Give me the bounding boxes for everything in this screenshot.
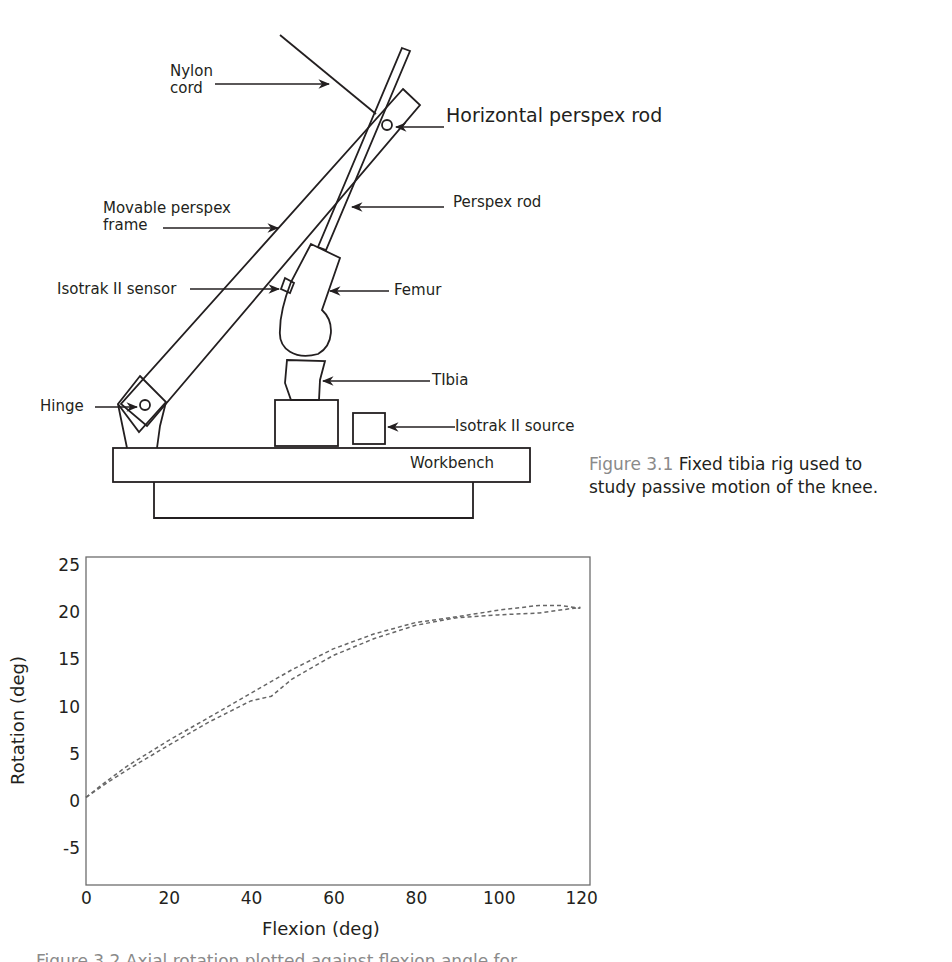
label-movable-perspex-frame: Movable perspex frame	[103, 200, 231, 235]
horizontal-rod-pivot	[382, 120, 392, 130]
x-tick-label: 0	[81, 888, 92, 908]
label-horizontal-perspex-rod: Horizontal perspex rod	[446, 105, 662, 127]
label-nylon-cord-line2: cord	[170, 80, 213, 97]
y-tick-label: -5	[63, 838, 80, 858]
y-tick-label: 15	[58, 649, 80, 669]
y-tick-label: 5	[69, 744, 80, 764]
label-perspex-rod: Perspex rod	[453, 194, 541, 211]
caption-text-2: study passive motion of the knee.	[589, 476, 878, 499]
label-hinge: Hinge	[40, 398, 84, 415]
y-tick-label: 25	[58, 555, 80, 575]
label-tibia: TIbia	[432, 372, 468, 389]
x-tick-label: 120	[565, 888, 597, 908]
x-tick-label: 60	[323, 888, 345, 908]
y-tick-label: 10	[58, 697, 80, 717]
figure-3-2-caption-clipped: Figure 3.2 Axial rotation plotted agains…	[36, 950, 539, 962]
caption-line1: Figure 3.1 Fixed tibia rig used to	[589, 453, 878, 476]
rig-diagram	[0, 0, 952, 530]
caption-figure-number: Figure 3.1	[589, 454, 673, 474]
label-frame-line1: Movable perspex	[103, 200, 231, 217]
tibia-shape	[285, 360, 325, 400]
label-isotrak-sensor: Isotrak II sensor	[57, 281, 176, 298]
movable-frame-shape	[121, 89, 420, 426]
label-nylon-cord: Nylon cord	[170, 63, 213, 98]
x-tick-label: 100	[483, 888, 515, 908]
label-nylon-cord-line1: Nylon	[170, 63, 213, 80]
plot-frame	[86, 557, 590, 885]
tibia-base-block	[275, 400, 338, 446]
x-tick-label: 80	[406, 888, 428, 908]
hinge-box	[118, 376, 166, 432]
y-tick-label: 20	[58, 602, 80, 622]
isotrak-source-shape	[353, 413, 385, 444]
label-isotrak-source: Isotrak II source	[455, 418, 575, 435]
x-tick-label: 20	[158, 888, 180, 908]
label-femur: Femur	[394, 282, 441, 299]
nylon-cord-line	[280, 35, 376, 114]
series-lower-trace	[86, 607, 580, 797]
series-upper-trace	[86, 605, 580, 797]
x-tick-label: 40	[241, 888, 263, 908]
hinge-pin	[140, 400, 150, 410]
y-axis-title: Rotation (deg)	[7, 656, 28, 785]
femur-shape	[280, 244, 340, 356]
figure-3-1-caption: Figure 3.1 Fixed tibia rig used to study…	[589, 453, 878, 499]
label-workbench: Workbench	[410, 455, 494, 472]
label-frame-line2: frame	[103, 217, 231, 234]
caption-text-1: Fixed tibia rig used to	[679, 454, 862, 474]
x-axis-title: Flexion (deg)	[262, 918, 380, 939]
workbench-base	[154, 482, 473, 518]
y-tick-label: 0	[69, 791, 80, 811]
